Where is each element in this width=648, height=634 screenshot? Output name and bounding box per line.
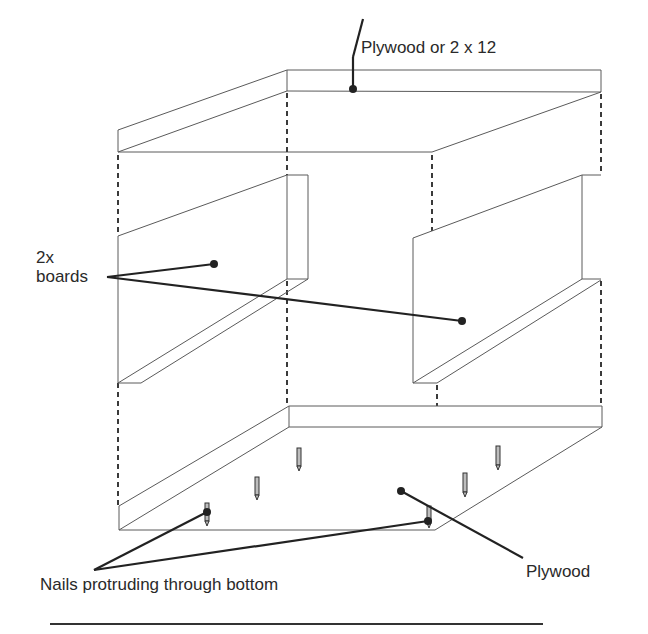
right-side-board bbox=[413, 175, 601, 383]
side-boards-label-line2: boards bbox=[36, 267, 88, 286]
nail-icon bbox=[463, 473, 467, 497]
nails bbox=[205, 446, 500, 528]
side-boards-label-line1: 2x bbox=[36, 248, 54, 267]
top-panel bbox=[118, 70, 601, 152]
alignment-guides bbox=[118, 93, 601, 506]
box-assembly-diagram bbox=[0, 0, 648, 634]
nail-icon bbox=[297, 448, 301, 471]
horizontal-rule bbox=[50, 623, 543, 625]
bottom-panel-label: Plywood bbox=[526, 562, 590, 581]
top-panel-label: Plywood or 2 x 12 bbox=[361, 38, 496, 57]
nail-icon bbox=[496, 446, 500, 470]
leader-lines bbox=[94, 19, 523, 570]
nails-label: Nails protruding through bottom bbox=[40, 575, 278, 594]
left-side-board bbox=[118, 175, 308, 383]
bottom-panel bbox=[119, 406, 602, 530]
nail-icon bbox=[255, 477, 259, 500]
